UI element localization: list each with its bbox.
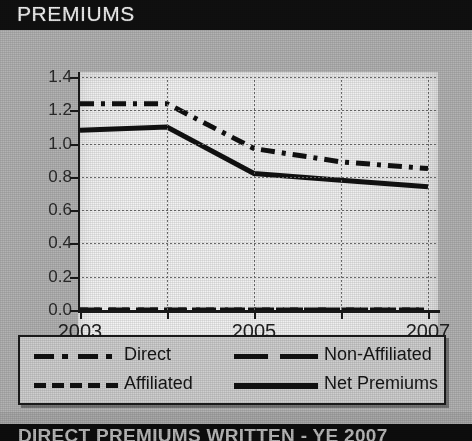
bottom-caption-band: DIRECT PREMIUMS WRITTEN - YE 2007 — [0, 424, 472, 441]
y-tick — [70, 144, 79, 146]
y-tick-label: 0.0 — [28, 300, 72, 320]
x-tick — [80, 310, 82, 319]
x-axis-line — [78, 310, 440, 313]
y-tick — [70, 77, 79, 79]
legend-label: Direct — [124, 344, 171, 365]
x-tick — [167, 310, 169, 319]
x-tick — [254, 310, 256, 319]
x-tick — [341, 310, 343, 319]
y-tick-label: 0.4 — [28, 233, 72, 253]
title-band: PREMIUMS — [0, 0, 472, 30]
gridline — [254, 77, 255, 310]
y-tick-label: 0.2 — [28, 267, 72, 287]
x-tick — [428, 310, 430, 319]
gridline — [78, 177, 438, 178]
gridline — [341, 77, 342, 310]
legend-swatch-dash-short-icon — [34, 383, 118, 388]
y-tick — [70, 110, 79, 112]
legend-label: Non-Affiliated — [324, 344, 432, 365]
chart-screenshot: PREMIUMS 0.00.20.40.60.81.01.21.4 200320… — [0, 0, 472, 441]
y-tick — [70, 243, 79, 245]
gridline — [78, 210, 438, 211]
legend-swatch-dash-long-icon — [234, 354, 318, 359]
gridline — [78, 110, 438, 111]
legend-label: Net Premiums — [324, 373, 438, 394]
gridline — [78, 77, 438, 78]
legend-swatch-solid-icon — [234, 383, 318, 389]
legend-item-direct: Direct — [28, 341, 228, 371]
y-tick — [70, 210, 79, 212]
y-tick — [70, 277, 79, 279]
bottom-caption-text: DIRECT PREMIUMS WRITTEN - YE 2007 — [18, 425, 388, 441]
gridline — [78, 277, 438, 278]
chart-legend: Direct Non-Affiliated Affiliated Net Pre… — [18, 335, 446, 405]
y-tick — [70, 177, 79, 179]
y-tick-label: 0.8 — [28, 167, 72, 187]
legend-label: Affiliated — [124, 373, 193, 394]
gridline — [428, 77, 429, 310]
gridline — [78, 243, 438, 244]
y-tick-label: 0.6 — [28, 200, 72, 220]
y-tick — [70, 310, 79, 312]
legend-swatch-dash-dot-icon — [34, 354, 118, 359]
page-title: PREMIUMS — [17, 2, 135, 26]
chart-card: 0.00.20.40.60.81.01.21.4 200320052007 Di… — [0, 30, 472, 412]
legend-item-net-premiums: Net Premiums — [228, 370, 438, 400]
chart-area: 0.00.20.40.60.81.01.21.4 200320052007 — [20, 64, 460, 326]
y-tick-label: 1.0 — [28, 134, 72, 154]
gridline — [78, 144, 438, 145]
y-tick-label: 1.4 — [28, 67, 72, 87]
legend-item-non-affiliated: Non-Affiliated — [228, 341, 438, 371]
legend-item-affiliated: Affiliated — [28, 370, 228, 400]
gridline — [167, 77, 168, 310]
y-tick-label: 1.2 — [28, 100, 72, 120]
